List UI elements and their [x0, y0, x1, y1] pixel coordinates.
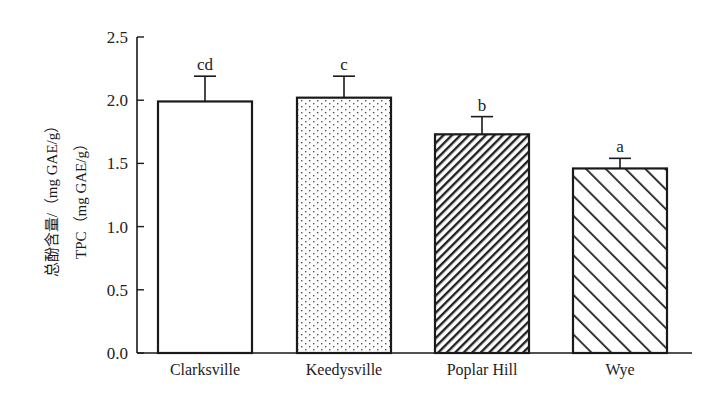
- x-tick-label: Poplar Hill: [447, 361, 518, 379]
- y-axis-label-line-1: 总酚含量/（mg GAE/g）: [40, 117, 61, 277]
- bars: cdClarksvillecKeedysvillebPoplar HillaWy…: [158, 55, 667, 379]
- bar: [158, 101, 252, 353]
- x-tick-label: Wye: [605, 361, 634, 379]
- bar-group: cKeedysville: [297, 55, 391, 379]
- y-tick-label: 2.0: [107, 91, 128, 110]
- x-tick-label: Clarksville: [170, 361, 240, 378]
- bar-group: aWye: [573, 137, 667, 379]
- bar: [297, 98, 391, 353]
- y-tick-label: 0.0: [107, 344, 128, 363]
- y-tick-label: 0.5: [107, 281, 128, 300]
- bar: [435, 134, 529, 353]
- bar-group: cdClarksville: [158, 55, 252, 378]
- x-tick-label: Keedysville: [306, 361, 382, 379]
- significance-letter: cd: [197, 55, 214, 74]
- y-axis-label-line-2: TPC（mg GAE/g）: [68, 136, 89, 259]
- y-tick-label: 2.5: [107, 28, 128, 47]
- significance-letter: c: [340, 55, 348, 74]
- significance-letter: a: [616, 137, 624, 156]
- bar: [573, 168, 667, 353]
- bar-group: bPoplar Hill: [435, 96, 529, 379]
- y-tick-label: 1.0: [107, 218, 128, 237]
- bar-chart: 0.00.51.01.52.02.5 cdClarksvillecKeedysv…: [0, 0, 723, 401]
- y-tick-label: 1.5: [107, 154, 128, 173]
- significance-letter: b: [478, 96, 487, 115]
